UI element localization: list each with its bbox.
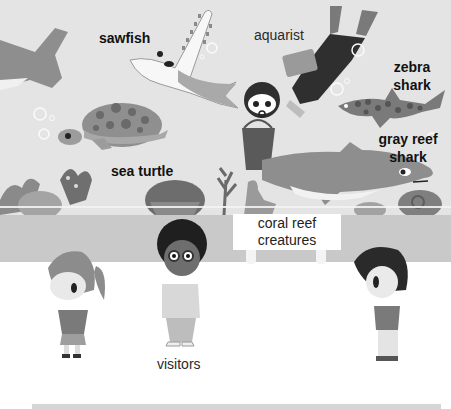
- aquarium-tank: [0, 0, 451, 215]
- label-zebra-shark-line-2: shark: [388, 76, 436, 94]
- left-shark-icon: [0, 28, 68, 90]
- exhibit-sign: coral reef creatures: [233, 214, 341, 250]
- label-aquarist: aquarist: [254, 26, 304, 44]
- label-zebra-shark: zebra shark: [388, 58, 436, 94]
- label-visitors: visitors: [157, 355, 201, 373]
- sawfish-icon: [130, 10, 238, 108]
- zebra-shark-icon: [338, 88, 445, 128]
- sea-turtle-icon: [34, 103, 168, 150]
- label-gray-reef-shark: gray reef shark: [369, 130, 447, 166]
- tank-illustration: [0, 0, 451, 215]
- label-gray-reef-shark-line-1: gray reef: [369, 130, 447, 148]
- glass-reflection-line: [0, 206, 451, 208]
- sign-line-2: creatures: [233, 232, 341, 249]
- floor: [0, 262, 451, 409]
- bottom-bar: [32, 404, 441, 409]
- sign-leg-left: [246, 250, 256, 264]
- label-sawfish: sawfish: [99, 29, 150, 47]
- aquarium-scene: coral reef creatures: [0, 0, 451, 409]
- sign-leg-right: [316, 250, 326, 264]
- label-gray-reef-shark-line-2: shark: [369, 148, 447, 166]
- label-zebra-shark-line-1: zebra: [388, 58, 436, 76]
- wall-band: [0, 215, 451, 262]
- label-sea-turtle: sea turtle: [111, 162, 173, 180]
- sign-line-1: coral reef: [233, 215, 341, 232]
- sign-text: coral reef creatures: [233, 215, 341, 249]
